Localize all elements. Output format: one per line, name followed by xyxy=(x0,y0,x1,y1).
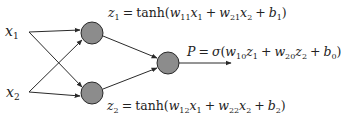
hidden-node-z2 xyxy=(81,82,103,104)
neural-network-diagram: x1 x2 z1=tanh(w11x1+w21x2+b1) P=σ(w10z1+… xyxy=(0,0,345,120)
edge-x1-z1 xyxy=(29,30,80,32)
input-edges xyxy=(29,30,82,96)
edge-x2-z1 xyxy=(29,40,82,92)
output-node-P xyxy=(157,52,179,74)
edge-z1-P xyxy=(103,36,157,58)
input-label-x2: x2 xyxy=(6,84,20,102)
equation-z2: z2=tanh(w12x1+w22x2+b2) xyxy=(106,98,286,115)
edge-x2-z2 xyxy=(29,92,80,96)
equation-P: P=σ(w10z1+w20z2+b0) xyxy=(186,44,341,61)
equation-z1: z1=tanh(w11x1+w21x2+b1) xyxy=(107,5,287,22)
edge-z2-P xyxy=(103,68,157,89)
edge-x1-z2 xyxy=(29,32,82,87)
hidden-node-z1 xyxy=(81,22,103,44)
input-label-x1: x1 xyxy=(5,23,19,41)
